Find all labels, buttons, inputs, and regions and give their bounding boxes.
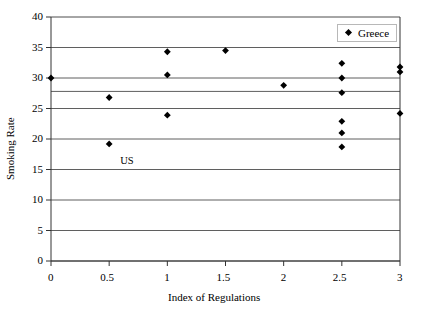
y-axis-tick-label: 40 xyxy=(32,10,43,22)
scatter-chart: Smoking Rate Index of Regulations Greece… xyxy=(0,0,428,321)
y-axis-tick-label: 0 xyxy=(38,254,44,266)
data-point-marker xyxy=(338,118,345,125)
legend: Greece xyxy=(337,24,397,42)
data-point-annotation: US xyxy=(120,155,133,166)
data-point-marker xyxy=(106,94,113,101)
x-axis-tick-label: 2.5 xyxy=(333,271,347,283)
data-point-marker xyxy=(164,112,171,119)
data-point-marker xyxy=(164,72,171,79)
data-point-marker xyxy=(338,130,345,137)
legend-diamond-icon xyxy=(344,29,353,38)
x-axis-tick-label: 3 xyxy=(397,271,403,283)
y-axis-title: Smoking Rate xyxy=(4,117,16,180)
data-point-marker xyxy=(338,144,345,151)
y-axis-tick-label: 5 xyxy=(38,224,44,236)
x-axis-tick-label: 2 xyxy=(281,271,287,283)
y-axis-tick-label: 20 xyxy=(32,132,43,144)
y-axis-tick-label: 25 xyxy=(32,102,43,114)
plot-area xyxy=(0,0,428,321)
y-axis-tick-label: 35 xyxy=(32,41,43,53)
x-axis-tick-label: 1 xyxy=(164,271,170,283)
data-point-marker xyxy=(280,82,287,89)
data-point-marker xyxy=(338,89,345,96)
x-axis-tick-label: 1.5 xyxy=(217,271,231,283)
x-axis-title: Index of Regulations xyxy=(168,291,260,303)
data-point-marker xyxy=(48,75,55,82)
legend-entry-label: Greece xyxy=(358,28,389,39)
data-point-marker xyxy=(338,75,345,82)
data-point-marker xyxy=(164,48,171,55)
data-point-marker xyxy=(397,110,404,117)
x-axis-tick-label: 0 xyxy=(48,271,54,283)
y-axis-tick-label: 10 xyxy=(32,193,43,205)
data-point-marker xyxy=(397,69,404,76)
y-axis-tick-label: 15 xyxy=(32,163,43,175)
data-point-marker xyxy=(222,47,229,54)
data-point-marker xyxy=(338,60,345,67)
x-axis-tick-label: 0.5 xyxy=(100,271,114,283)
data-point-marker xyxy=(106,140,113,147)
y-axis-tick-label: 30 xyxy=(32,71,43,83)
